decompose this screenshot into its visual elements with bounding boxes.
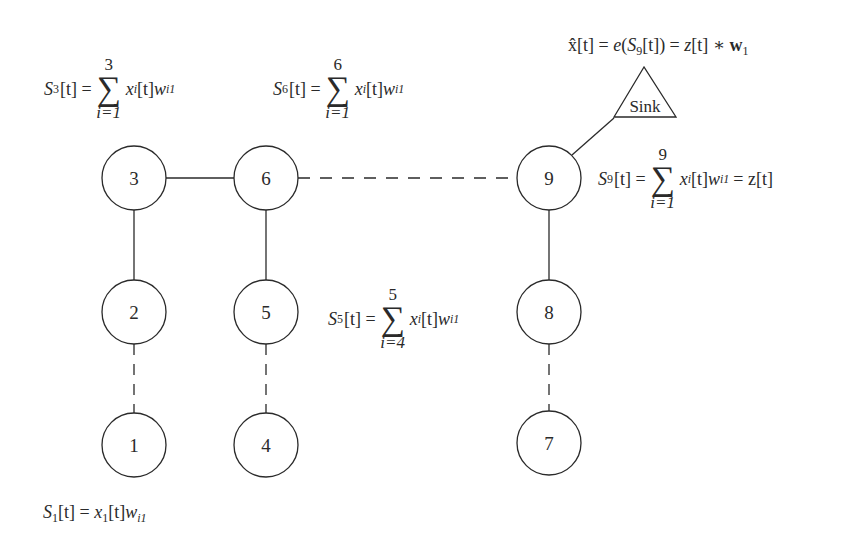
eq-s5-summation: 5 ∑ i=4 [378,286,408,352]
node-4-label: 4 [261,435,271,456]
eq-s5-mid: [t] [421,310,438,328]
eq-s9-w: w [708,170,720,188]
eq-s3-lower: i=1 [86,104,132,122]
eq-xhat-close: [t]) = [642,35,684,55]
eq-s3-w: w [154,80,166,98]
eq-s1-w-sub: i1 [137,511,146,525]
node-3-label: 3 [129,168,139,189]
equation-s6: S6[t] = 6 ∑ i=1 xi[t]wi1 [273,56,404,122]
eq-xhat-w: w [730,35,743,55]
eq-s5-w: w [438,310,450,328]
eq-s1-x: x [94,502,102,522]
equation-xhat: x̂[t] = e(S9[t]) = z[t] ∗ w1 [568,36,749,54]
eq-s9-mid: [t] [691,170,708,188]
eq-s9-arg: [t] = [614,170,646,188]
equation-s3: S3[t] = 3 ∑ i=1 xi[t]wi1 [44,56,175,122]
eq-s6-arg: [t] = [289,80,321,98]
eq-s9-summation: 9 ∑ i=1 [648,146,678,212]
node-6-label: 6 [261,168,271,189]
node-1-label: 1 [129,435,139,456]
node-7-label: 7 [544,433,554,454]
sigma-icon: ∑ [648,164,678,194]
node-8-label: 8 [544,302,554,323]
eq-s3-arg: [t] = [60,80,92,98]
node-9-label: 9 [544,168,554,189]
eq-s5-lower: i=4 [370,334,416,352]
eq-s3-mid: [t] [137,80,154,98]
eq-xhat-ztail: [t] ∗ [691,35,729,55]
eq-s3-x: x [126,80,134,98]
eq-s6-lhs: S [273,80,282,98]
eq-s9-lower: i=1 [640,194,686,212]
eq-xhat-s: S [627,35,636,55]
eq-s1-eq: [t] = [58,502,94,522]
equation-s9: S9[t] = 9 ∑ i=1 xi[t]wi1= z[t] [598,146,773,212]
eq-s9-tail: = z[t] [733,170,773,188]
eq-xhat-e: e [613,35,621,55]
equation-s1: S1[t] = x1[t]wi1 [43,503,147,521]
sigma-icon: ∑ [94,74,124,104]
equation-s5: S5[t] = 5 ∑ i=4 xi[t]wi1 [328,286,459,352]
eq-s9-x: x [680,170,688,188]
eq-s3-summation: 3 ∑ i=1 [94,56,124,122]
eq-s3-lhs: S [44,80,53,98]
eq-xhat-lhs: x̂[t] = [568,35,613,55]
eq-s5-arg: [t] = [344,310,376,328]
eq-s6-x: x [355,80,363,98]
eq-s6-w: w [383,80,395,98]
eq-s5-lhs: S [328,310,337,328]
eq-s6-lower: i=1 [315,104,361,122]
node-2-label: 2 [129,302,139,323]
sink-label: Sink [629,97,661,116]
node-5-label: 5 [261,302,271,323]
sigma-icon: ∑ [378,304,408,334]
eq-s6-mid: [t] [366,80,383,98]
eq-s1-mid: [t] [108,502,125,522]
eq-s9-lhs: S [598,170,607,188]
eq-xhat-w-sub: 1 [743,44,749,58]
eq-s1-lhs: S [43,502,52,522]
eq-s5-x: x [410,310,418,328]
eq-s1-w: w [125,502,137,522]
sigma-icon: ∑ [323,74,353,104]
eq-s6-summation: 6 ∑ i=1 [323,56,353,122]
